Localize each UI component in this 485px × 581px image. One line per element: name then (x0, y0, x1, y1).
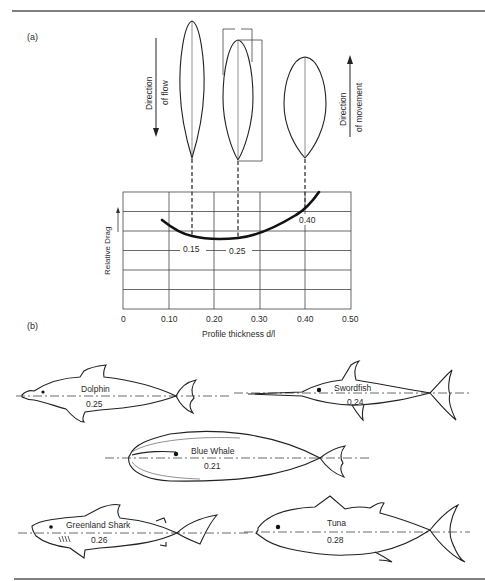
arrow-up-icon (347, 55, 353, 64)
x-tick: 0.40 (297, 314, 314, 324)
point-label-015: 0.15 (183, 244, 200, 254)
animal-name: Swordfish (334, 383, 372, 393)
figure-canvas: (a) (b) Direction of flow Direction of m… (0, 0, 485, 581)
direction-of-movement: Direction of movement (338, 55, 364, 137)
drag-chart: 0.15 0.25 0.40 Relative Drag 0 0.10 0.20… (103, 192, 359, 339)
y-axis-label: Relative Drag (103, 227, 112, 275)
panel-b-label: (b) (27, 321, 38, 331)
point-label-025: 0.25 (229, 246, 246, 256)
animal-value: 0.28 (327, 535, 344, 545)
animal-value: 0.25 (86, 399, 103, 409)
profile-medium (223, 29, 262, 161)
animal-value: 0.21 (204, 461, 221, 471)
point-label-040: 0.40 (299, 215, 316, 225)
x-tick: 0.20 (206, 314, 223, 324)
x-tick-labels: 0 0.10 0.20 0.30 0.40 0.50 (121, 314, 359, 324)
drag-curve (162, 192, 319, 239)
movement-label-line2: of movement (354, 82, 364, 132)
flow-label-line1: Direction (144, 76, 154, 110)
movement-label-line1: Direction (338, 92, 348, 126)
x-tick: 0.10 (161, 314, 178, 324)
animal-name: Tuna (327, 518, 346, 528)
animal-value: 0.26 (91, 535, 108, 545)
swordfish-drawing: Swordfish 0.24 (234, 361, 470, 420)
x-tick: 0 (121, 314, 126, 324)
blue-whale-drawing: Blue Whale 0.21 (105, 431, 370, 481)
animal-value: 0.24 (347, 397, 364, 407)
animal-name: Dolphin (81, 384, 110, 394)
x-tick: 0.50 (342, 314, 359, 324)
greenland-shark-drawing: Greenland Shark 0.26 (18, 505, 250, 558)
flow-label-line2: of flow (160, 80, 170, 105)
x-axis-label: Profile thickness d/l (202, 329, 275, 339)
arrow-up-icon (116, 207, 120, 213)
profile-slender (180, 21, 204, 158)
profile-thick (284, 57, 326, 158)
tuna-drawing: Tuna 0.28 (244, 496, 470, 562)
dolphin-drawing: Dolphin 0.25 (16, 365, 230, 422)
panel-a-label: (a) (27, 32, 38, 42)
x-tick: 0.30 (251, 314, 268, 324)
bracket-inner (239, 40, 262, 161)
direction-of-flow: Direction of flow (144, 38, 170, 137)
animal-name: Blue Whale (191, 446, 235, 456)
animal-name: Greenland Shark (66, 520, 131, 530)
bracket-outer (223, 29, 252, 75)
arrow-down-icon (153, 128, 159, 137)
